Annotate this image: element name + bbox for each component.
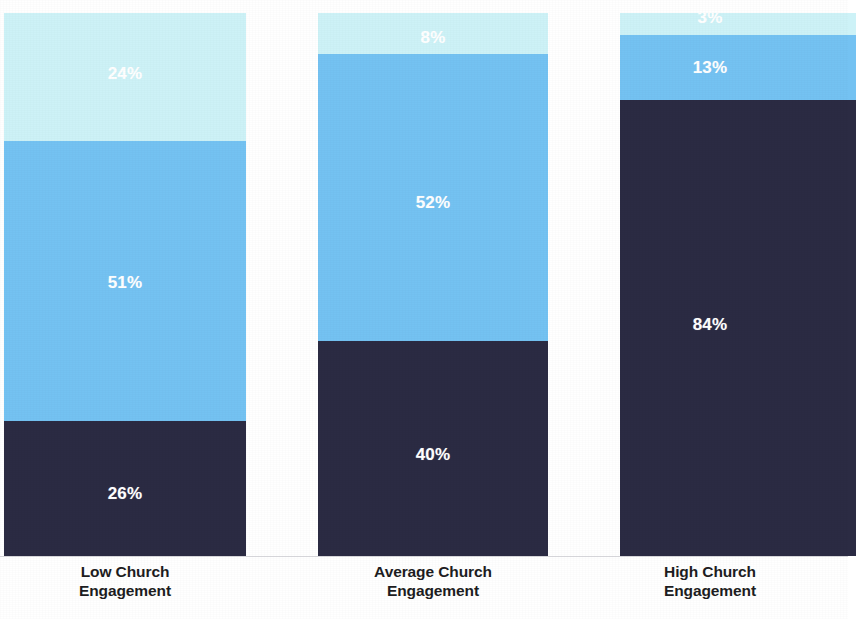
category-label-average-church-engagement: Average Church Engagement <box>318 562 548 600</box>
category-label-low-line1: Low Church <box>81 563 170 580</box>
bar-high-segment-light-value: 3% <box>620 9 800 26</box>
category-label-high-line1: High Church <box>664 563 756 580</box>
bar-high-segment-light[interactable]: 3% <box>620 13 856 35</box>
bar-low-church-engagement[interactable]: 24% 51% 26% <box>4 13 246 556</box>
bar-high-segment-medium[interactable]: 13% <box>620 35 856 100</box>
bar-average-segment-navy-value: 40% <box>318 446 548 463</box>
bar-low-segment-medium[interactable]: 51% <box>4 141 246 421</box>
category-label-high-church-engagement: High Church Engagement <box>620 562 800 600</box>
bar-low-segment-medium-value: 51% <box>4 274 246 291</box>
bar-average-segment-medium[interactable]: 52% <box>318 54 548 341</box>
bar-low-segment-navy[interactable]: 26% <box>4 421 246 556</box>
bar-high-segment-navy[interactable]: 84% <box>620 100 856 556</box>
bar-low-segment-navy-value: 26% <box>4 485 246 502</box>
category-label-low-line2: Engagement <box>4 581 246 600</box>
category-label-average-line1: Average Church <box>374 563 492 580</box>
bar-average-church-engagement[interactable]: 8% 52% 40% <box>318 13 548 556</box>
category-labels-row: Low Church Engagement Average Church Eng… <box>0 562 848 619</box>
bar-low-segment-light[interactable]: 24% <box>4 13 246 141</box>
bar-high-segment-medium-value: 13% <box>620 59 800 76</box>
bar-average-segment-navy[interactable]: 40% <box>318 341 548 556</box>
bar-high-segment-navy-value: 84% <box>620 316 800 333</box>
baseline-axis <box>0 556 848 557</box>
category-label-low-church-engagement: Low Church Engagement <box>4 562 246 600</box>
bar-high-church-engagement[interactable]: 3% 13% 84% <box>620 13 856 556</box>
bar-average-segment-light-value: 8% <box>318 29 548 46</box>
bar-average-segment-medium-value: 52% <box>318 194 548 211</box>
category-label-average-line2: Engagement <box>318 581 548 600</box>
bar-low-segment-light-value: 24% <box>4 65 246 82</box>
plot-area: 24% 51% 26% 8% 52% 40% 3% <box>0 0 848 556</box>
bar-average-segment-light[interactable]: 8% <box>318 13 548 54</box>
category-label-high-line2: Engagement <box>620 581 800 600</box>
